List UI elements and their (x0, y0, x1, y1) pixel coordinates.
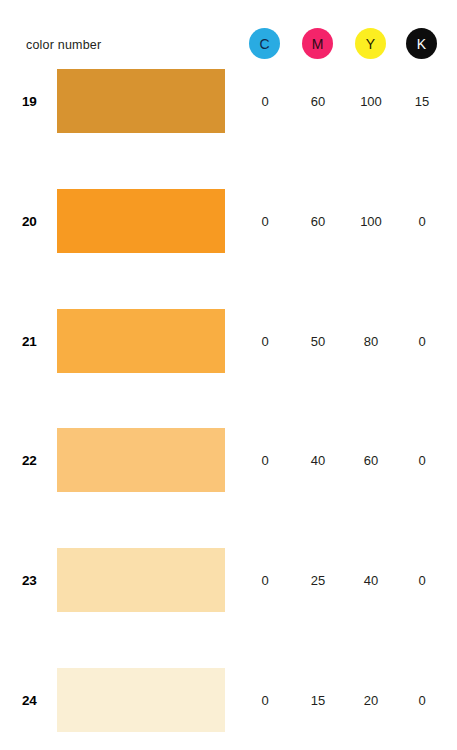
value-cyan: 0 (245, 428, 285, 492)
row-number: 23 (22, 548, 36, 612)
channel-label-magenta: M (312, 36, 324, 50)
channel-badge-magenta: M (302, 28, 333, 59)
value-magenta: 60 (298, 69, 338, 133)
table-row: 19 0 60 100 15 (0, 69, 457, 133)
value-yellow: 80 (351, 309, 391, 373)
color-swatch (57, 309, 225, 373)
value-yellow: 60 (351, 428, 391, 492)
value-black: 0 (402, 189, 442, 253)
value-cyan: 0 (245, 668, 285, 732)
row-number: 20 (22, 189, 36, 253)
row-number: 19 (22, 69, 36, 133)
value-yellow: 20 (351, 668, 391, 732)
value-magenta: 15 (298, 668, 338, 732)
value-cyan: 0 (245, 548, 285, 612)
value-cyan: 0 (245, 309, 285, 373)
channel-badge-cyan: C (249, 28, 280, 59)
color-swatch (57, 189, 225, 253)
value-magenta: 60 (298, 189, 338, 253)
chart-header: color number C M Y K (0, 28, 457, 68)
value-magenta: 40 (298, 428, 338, 492)
color-swatch (57, 69, 225, 133)
row-number: 21 (22, 309, 36, 373)
channel-label-black: K (417, 36, 426, 50)
table-row: 24 0 15 20 0 (0, 668, 457, 732)
value-cyan: 0 (245, 189, 285, 253)
channel-label-cyan: C (259, 36, 269, 50)
table-row: 21 0 50 80 0 (0, 309, 457, 373)
color-swatch (57, 548, 225, 612)
value-yellow: 40 (351, 548, 391, 612)
value-black: 0 (402, 428, 442, 492)
value-black: 0 (402, 668, 442, 732)
table-row: 23 0 25 40 0 (0, 548, 457, 612)
value-magenta: 25 (298, 548, 338, 612)
table-row: 20 0 60 100 0 (0, 189, 457, 253)
color-chart-page: color number C M Y K 19 0 60 100 15 20 0… (0, 0, 457, 750)
table-row: 22 0 40 60 0 (0, 428, 457, 492)
value-yellow: 100 (351, 189, 391, 253)
channel-label-yellow: Y (366, 36, 375, 50)
channel-badge-black: K (406, 28, 437, 59)
page-title: color number (26, 38, 101, 52)
value-magenta: 50 (298, 309, 338, 373)
row-number: 24 (22, 668, 36, 732)
row-number: 22 (22, 428, 36, 492)
channel-badge-yellow: Y (355, 28, 386, 59)
value-black: 0 (402, 548, 442, 612)
value-yellow: 100 (351, 69, 391, 133)
value-cyan: 0 (245, 69, 285, 133)
color-swatch (57, 668, 225, 732)
color-swatch (57, 428, 225, 492)
value-black: 0 (402, 309, 442, 373)
value-black: 15 (402, 69, 442, 133)
